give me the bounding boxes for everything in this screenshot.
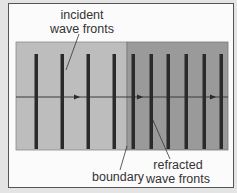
wave-front (87, 54, 91, 149)
incident-label: incident wave fronts (50, 8, 114, 36)
wave-front (35, 54, 39, 149)
refracted-label-line1: refracted (146, 158, 210, 172)
wave-front (113, 54, 117, 149)
wave-front (150, 54, 154, 149)
wave-front (185, 54, 189, 149)
boundary-label: boundary (92, 170, 144, 184)
wave-front (203, 54, 207, 149)
refracted-label: refracted wave fronts (146, 158, 210, 186)
wave-front (61, 54, 65, 149)
wave-front (132, 54, 136, 149)
refracted-label-line2: wave fronts (146, 172, 210, 186)
wave-front (167, 54, 171, 149)
incident-label-line1: incident (50, 8, 114, 22)
medium-1-region (16, 42, 127, 150)
wave-front (220, 54, 224, 149)
incident-label-line2: wave fronts (50, 22, 114, 36)
